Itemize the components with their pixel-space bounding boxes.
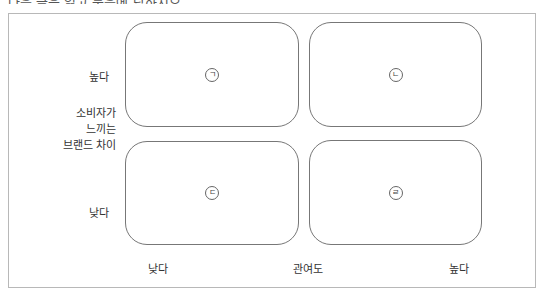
- quadrant-top-right: ㄴ: [309, 22, 482, 127]
- y-axis-high-label: 높다: [89, 68, 109, 84]
- circled-marker: ㄹ: [389, 186, 403, 200]
- y-axis-title-line: 소비자가: [50, 106, 116, 122]
- question-caption: 다음 글을 읽고 물음에 답하시오.: [8, 0, 185, 4]
- quadrant-top-left: ㄱ: [125, 22, 299, 127]
- quadrant-bottom-right: ㄹ: [309, 140, 482, 245]
- y-axis-title-line: 브랜드 차이: [50, 138, 116, 154]
- circled-marker: ㄷ: [205, 186, 219, 200]
- y-axis-title-line: 느끼는: [50, 122, 116, 138]
- quadrant-bottom-left: ㄷ: [125, 141, 299, 245]
- circled-marker: ㄴ: [389, 68, 403, 82]
- y-axis-title: 소비자가 느끼는 브랜드 차이: [50, 106, 116, 154]
- y-axis-low-label: 낮다: [89, 204, 109, 220]
- x-axis-low-label: 낮다: [148, 260, 168, 276]
- x-axis-high-label: 높다: [449, 260, 469, 276]
- x-axis-title: 관여도: [293, 260, 323, 276]
- circled-marker: ㄱ: [205, 68, 219, 82]
